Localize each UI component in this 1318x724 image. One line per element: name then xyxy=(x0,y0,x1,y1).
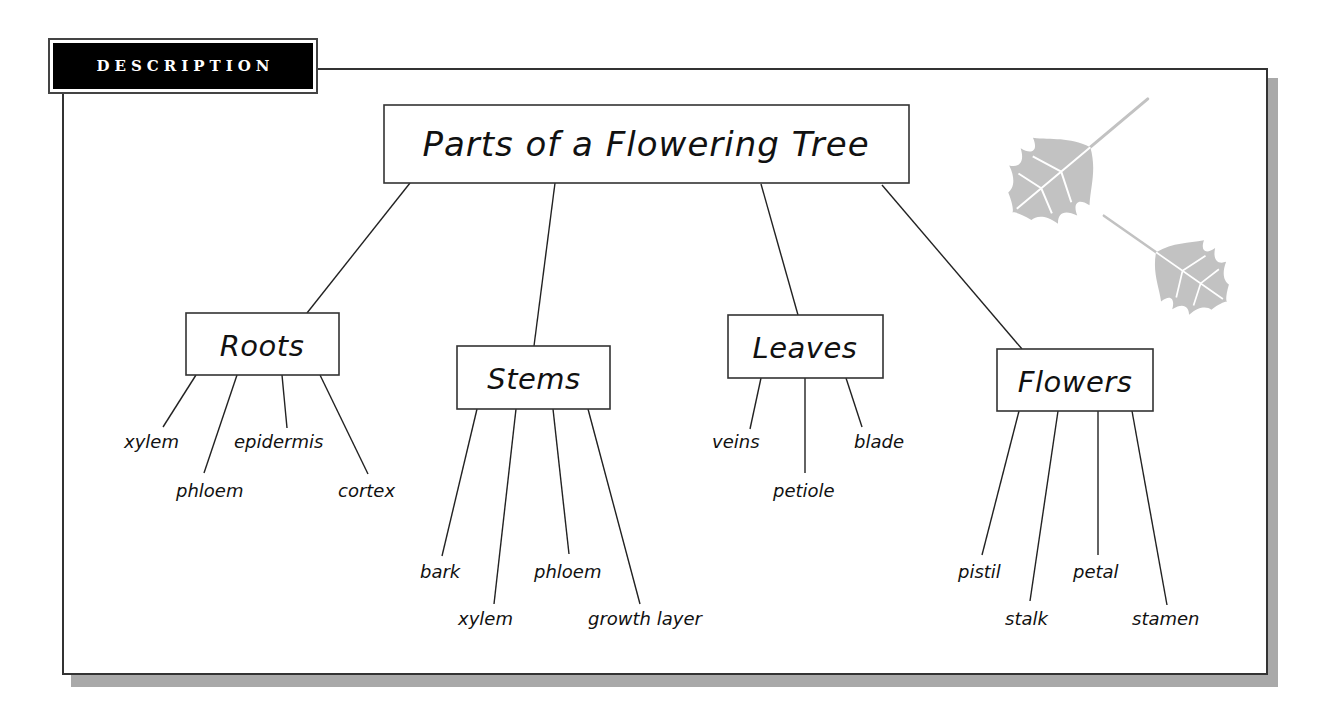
node-flowers: Flowers xyxy=(1018,365,1133,399)
part-leaves-blade: blade xyxy=(854,431,904,452)
title-node: Parts of a Flowering Tree xyxy=(384,105,909,183)
part-stems-xylem: xylem xyxy=(457,608,513,629)
node-leaves: Leaves xyxy=(753,331,858,365)
part-flowers-stalk: stalk xyxy=(1005,608,1049,629)
branch-roots: Roots xylem phloem epidermis cortex xyxy=(123,313,395,501)
node-roots: Roots xyxy=(220,329,305,363)
branch-stems: Stems bark xylem phloem growth layer xyxy=(420,346,704,629)
part-leaves-petiole: petiole xyxy=(772,480,835,501)
edge-title-flowers xyxy=(882,185,1022,349)
part-stems-bark: bark xyxy=(420,561,462,582)
part-roots-phloem: phloem xyxy=(175,480,243,501)
part-stems-growth-layer: growth layer xyxy=(588,608,704,629)
node-stems: Stems xyxy=(487,362,580,396)
leaf-icon xyxy=(984,65,1176,246)
concept-map: Parts of a Flowering Tree Roots xylem ph… xyxy=(0,0,1318,724)
part-flowers-petal: petal xyxy=(1072,561,1119,582)
branch-leaves: Leaves veins petiole blade xyxy=(712,315,904,501)
edge-title-stems xyxy=(534,183,555,346)
part-roots-cortex: cortex xyxy=(338,480,395,501)
branch-flowers: Flowers pistil stalk petal stamen xyxy=(957,349,1199,629)
edge-title-leaves xyxy=(761,184,798,315)
part-roots-xylem: xylem xyxy=(123,431,179,452)
part-flowers-pistil: pistil xyxy=(957,561,1001,582)
part-leaves-veins: veins xyxy=(712,431,760,452)
edge-title-roots xyxy=(307,183,410,313)
part-roots-epidermis: epidermis xyxy=(234,431,323,452)
part-stems-phloem: phloem xyxy=(533,561,601,582)
diagram-title: Parts of a Flowering Tree xyxy=(422,124,869,164)
part-flowers-stamen: stamen xyxy=(1132,608,1199,629)
leaf-icon xyxy=(1082,185,1248,333)
